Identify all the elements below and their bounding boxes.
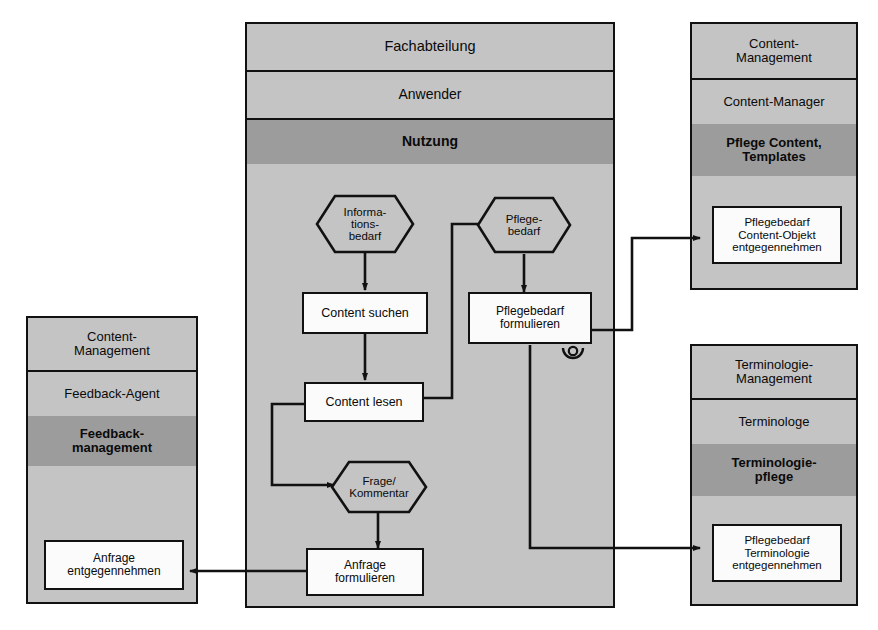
node-pflegebedarf-content-objekt-entgegennehmen[interactable]: Pflegebedarf Content-Objekt entgegennehm… xyxy=(712,206,842,264)
node-anfrage-formulieren-line-1: Anfrage xyxy=(344,559,386,572)
pool-feedback-process-line-1: Feedback- xyxy=(80,427,144,441)
node-pflegebedarf-terminologie-entgegennehmen[interactable]: Pflegebedarf Terminologie entgegennehmen xyxy=(712,524,842,582)
pool-terminologie-management: Terminologie- Management Terminologe Ter… xyxy=(690,344,858,606)
pool-content-process-line-2: Templates xyxy=(742,150,805,164)
event-frage-kommentar[interactable]: Frage/ Kommentar xyxy=(330,460,428,514)
node-pflegebedarf-terminologie-line-1: Pflegebedarf xyxy=(744,534,809,547)
pool-feedback-process: Feedback- management xyxy=(28,416,196,466)
pool-fachabteilung-role: Anwender xyxy=(247,72,613,120)
pool-terminologie-organisation: Terminologie- Management xyxy=(692,346,856,400)
pool-terminologie-process: Terminologie- pflege xyxy=(692,444,856,496)
event-pflegebedarf[interactable]: Pflege- bedarf xyxy=(476,196,572,254)
pool-content-role: Content-Manager xyxy=(692,80,856,124)
node-content-suchen[interactable]: Content suchen xyxy=(302,292,428,334)
event-informationsbedarf[interactable]: Informa- tions- bedarf xyxy=(315,194,415,254)
node-pflegebedarf-formulieren-line-2: formulieren xyxy=(500,318,560,331)
node-anfrage-entgegennehmen-line-2: entgegennehmen xyxy=(67,565,160,578)
pool-fachabteilung-organisation: Fachabteilung xyxy=(247,24,613,72)
node-pflegebedarf-content-line-2: Content-Objekt xyxy=(738,229,815,242)
pool-content-organisation: Content- Management xyxy=(692,24,856,80)
pool-content-organisation-line-2: Management xyxy=(736,51,812,65)
process-diagram: Fachabteilung Anwender Nutzung Content- … xyxy=(0,0,878,630)
pool-fachabteilung-process: Nutzung xyxy=(247,120,613,164)
node-pflegebedarf-formulieren[interactable]: Pflegebedarf formulieren xyxy=(468,292,592,344)
node-pflegebedarf-content-line-3: entgegennehmen xyxy=(732,241,822,254)
node-anfrage-entgegennehmen[interactable]: Anfrage entgegennehmen xyxy=(44,540,184,590)
pool-terminologie-organisation-line-1: Terminologie- xyxy=(735,358,813,372)
pool-feedback-management: Content- Management Feedback-Agent Feedb… xyxy=(26,316,198,604)
pool-content-management: Content- Management Content-Manager Pfle… xyxy=(690,22,858,290)
node-pflegebedarf-content-line-1: Pflegebedarf xyxy=(744,216,809,229)
node-content-lesen[interactable]: Content lesen xyxy=(304,382,424,422)
pool-terminologie-process-line-1: Terminologie- xyxy=(732,456,817,470)
pool-feedback-organisation-line-2: Management xyxy=(74,344,150,358)
pool-feedback-organisation: Content- Management xyxy=(28,318,196,372)
pool-feedback-process-line-2: management xyxy=(72,441,152,455)
node-anfrage-entgegennehmen-line-1: Anfrage xyxy=(93,552,135,565)
node-anfrage-formulieren-line-2: formulieren xyxy=(335,572,395,585)
pool-terminologie-process-line-2: pflege xyxy=(755,470,793,484)
pool-feedback-role: Feedback-Agent xyxy=(28,372,196,416)
pool-terminologie-role: Terminologe xyxy=(692,400,856,444)
pool-feedback-organisation-line-1: Content- xyxy=(87,330,137,344)
node-pflegebedarf-terminologie-line-3: entgegennehmen xyxy=(732,559,822,572)
node-anfrage-formulieren[interactable]: Anfrage formulieren xyxy=(306,548,424,596)
node-pflegebedarf-formulieren-line-1: Pflegebedarf xyxy=(496,305,564,318)
pool-content-process-line-1: Pflege Content, xyxy=(726,136,821,150)
node-pflegebedarf-terminologie-line-2: Terminologie xyxy=(744,547,809,560)
pool-content-organisation-line-1: Content- xyxy=(749,37,799,51)
pool-terminologie-organisation-line-2: Management xyxy=(736,372,812,386)
pool-content-process: Pflege Content, Templates xyxy=(692,124,856,176)
